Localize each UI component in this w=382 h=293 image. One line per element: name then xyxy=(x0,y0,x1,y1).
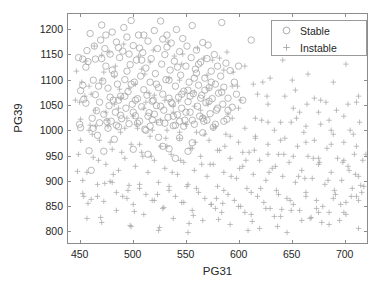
data-point xyxy=(211,51,217,57)
data-point xyxy=(266,170,271,175)
y-tick-mark-right xyxy=(364,231,368,232)
data-point xyxy=(326,210,331,215)
data-point xyxy=(200,218,205,223)
data-point xyxy=(126,121,132,127)
data-point xyxy=(316,156,321,161)
data-point xyxy=(137,182,142,187)
data-point xyxy=(172,53,177,58)
data-point xyxy=(311,156,316,161)
data-point xyxy=(213,206,218,211)
data-point xyxy=(95,194,100,199)
data-point xyxy=(109,29,115,35)
y-tick-label: 1000 xyxy=(19,124,63,136)
y-tick-mark xyxy=(67,231,71,232)
data-point xyxy=(248,212,253,217)
data-point xyxy=(167,67,173,73)
data-point xyxy=(139,150,144,155)
data-point xyxy=(92,91,98,97)
data-point xyxy=(90,77,96,83)
data-point xyxy=(281,152,286,157)
data-point xyxy=(227,67,233,73)
data-point xyxy=(345,164,350,169)
data-point xyxy=(288,208,293,213)
data-point xyxy=(316,109,321,114)
data-point xyxy=(107,140,112,145)
data-point xyxy=(132,97,138,103)
data-point xyxy=(221,170,226,175)
data-point xyxy=(136,45,142,51)
data-point xyxy=(243,158,248,163)
data-point xyxy=(143,192,148,197)
data-point xyxy=(102,45,108,51)
data-point xyxy=(111,172,116,177)
data-point xyxy=(188,54,194,60)
data-point xyxy=(179,61,184,66)
data-point xyxy=(265,142,270,147)
data-point xyxy=(172,155,178,161)
y-tick-label: 1200 xyxy=(19,23,63,35)
y-tick-label: 950 xyxy=(19,150,63,162)
data-point xyxy=(303,140,308,145)
data-point xyxy=(122,156,127,161)
data-point xyxy=(164,32,170,38)
data-point xyxy=(280,57,285,62)
data-point xyxy=(86,148,92,154)
data-point xyxy=(235,83,240,88)
data-point xyxy=(337,218,342,223)
data-point xyxy=(265,101,270,106)
data-point xyxy=(303,194,308,199)
data-point xyxy=(352,152,357,157)
data-point xyxy=(291,202,296,207)
data-point xyxy=(128,17,134,23)
data-point xyxy=(156,228,161,233)
data-point xyxy=(147,134,152,139)
data-point xyxy=(242,63,247,68)
data-point xyxy=(141,212,146,217)
y-tick-mark-right xyxy=(364,156,368,157)
data-point xyxy=(227,156,232,161)
data-point xyxy=(290,77,295,82)
data-point xyxy=(351,132,356,137)
data-point xyxy=(81,194,86,199)
data-point xyxy=(228,174,233,179)
data-point xyxy=(123,105,129,111)
data-point xyxy=(307,216,312,221)
data-point xyxy=(230,83,235,88)
y-tick-mark xyxy=(67,105,71,106)
data-point xyxy=(356,226,361,231)
y-tick-mark xyxy=(67,206,71,207)
data-point xyxy=(178,105,184,111)
data-point xyxy=(88,197,93,202)
y-tick-label: 1150 xyxy=(19,48,63,60)
data-point xyxy=(193,140,198,145)
data-point xyxy=(92,43,97,48)
data-point xyxy=(75,169,80,174)
data-point xyxy=(233,91,239,97)
data-point xyxy=(238,97,243,102)
legend-label-instable: Instable xyxy=(300,42,337,54)
data-point xyxy=(114,190,119,195)
x-tick-label: 550 xyxy=(177,248,195,260)
data-point xyxy=(145,170,150,175)
data-point xyxy=(174,64,180,70)
chart-legend: Stable Instable xyxy=(271,20,367,56)
data-point xyxy=(76,152,81,157)
data-point xyxy=(246,150,251,155)
data-point xyxy=(145,38,151,44)
data-point xyxy=(319,220,324,225)
data-point xyxy=(202,196,207,201)
data-point xyxy=(236,105,241,110)
data-point xyxy=(294,116,299,121)
data-point xyxy=(267,75,272,80)
data-point xyxy=(95,182,100,187)
data-point xyxy=(191,213,196,218)
data-point xyxy=(354,144,359,149)
data-point xyxy=(177,130,182,135)
data-point xyxy=(224,49,229,54)
data-point xyxy=(160,36,166,42)
data-point xyxy=(251,81,256,86)
data-point xyxy=(215,184,220,189)
x-axis-title: PG31 xyxy=(67,265,368,277)
data-point xyxy=(308,215,313,220)
data-point xyxy=(199,162,204,167)
